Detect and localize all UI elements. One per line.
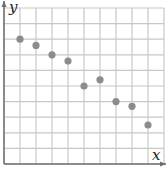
data-point <box>112 98 119 105</box>
scatter-plot <box>0 0 166 174</box>
data-point <box>32 42 39 49</box>
data-point <box>96 76 103 83</box>
data-point <box>16 36 23 43</box>
data-point <box>48 51 55 58</box>
data-point <box>144 121 151 128</box>
x-axis-arrow-icon <box>160 162 166 167</box>
y-axis-label: y <box>9 0 17 15</box>
data-point <box>128 103 135 110</box>
x-axis-label: x <box>152 148 160 163</box>
y-axis-arrow-icon <box>2 1 7 7</box>
data-point <box>80 82 87 89</box>
data-point <box>64 57 71 64</box>
